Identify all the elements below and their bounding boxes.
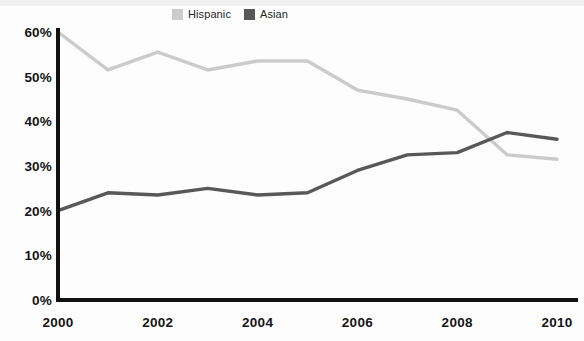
- x-tick-label: 2004: [242, 315, 273, 330]
- chart-line-asian: [58, 133, 557, 211]
- chart-legend: Hispanic Asian: [172, 9, 288, 20]
- y-tick-label: 50%: [4, 69, 52, 84]
- legend-label-asian: Asian: [260, 9, 288, 20]
- chart-plot-area: 0%10%20%30%40%50%60% 2000200220042006200…: [0, 0, 584, 341]
- x-tick-label: 2002: [142, 315, 173, 330]
- y-tick-label: 20%: [4, 203, 52, 218]
- legend-swatch-hispanic: [172, 9, 183, 20]
- y-tick-label: 30%: [4, 159, 52, 174]
- y-tick-label: 0%: [4, 293, 52, 308]
- legend-label-hispanic: Hispanic: [188, 9, 231, 20]
- y-tick-label: 60%: [4, 25, 52, 40]
- legend-item-hispanic: Hispanic: [172, 9, 231, 20]
- y-tick-label: 40%: [4, 114, 52, 129]
- chart-line-hispanic: [58, 32, 557, 159]
- legend-swatch-asian: [244, 9, 255, 20]
- y-tick-label: 10%: [4, 248, 52, 263]
- x-tick-label: 2010: [541, 315, 572, 330]
- x-tick-label: 2000: [42, 315, 73, 330]
- chart-page: Hispanic Asian 0%10%20%30%40%50%60% 2000…: [0, 0, 584, 341]
- chart-svg: [0, 0, 584, 341]
- chart-series-layer: [58, 32, 557, 211]
- chart-axis-layer: [56, 28, 578, 300]
- legend-item-asian: Asian: [244, 9, 288, 20]
- x-tick-label: 2006: [342, 315, 373, 330]
- x-tick-label: 2008: [442, 315, 473, 330]
